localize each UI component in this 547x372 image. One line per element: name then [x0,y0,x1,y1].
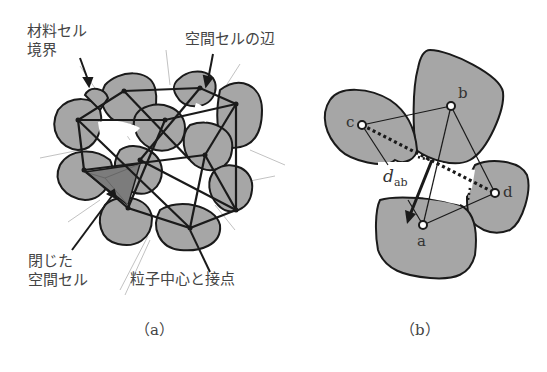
distance-label-dab: dab [383,166,408,189]
point-d-label: d [503,183,513,201]
point-c-label: c [346,113,354,131]
point-c [358,121,366,129]
caption-b: （b） [400,318,440,339]
point-a-label: a [417,232,426,250]
point-b-label: b [458,84,468,102]
particle-c [325,90,417,164]
point-d [491,189,499,197]
material-cell-boundary-label: 材料セル 境界 [27,22,87,60]
distance-subscript: ab [394,176,408,189]
label-line-2: 境界 [27,41,87,60]
panel-b-diagram [325,50,529,278]
void-cell-edge-label: 空間セルの辺 [185,30,275,49]
caption-a: （a） [135,318,174,339]
point-a [419,221,427,229]
label-line-1: 閉じた [28,252,88,271]
closed-void-cell-label: 閉じた 空間セル [28,252,88,290]
distance-symbol: d [383,166,394,186]
particle-b [414,50,504,163]
label-line-2: 空間セル [28,271,88,290]
label-line-1: 材料セル [27,22,87,41]
point-b [447,102,455,110]
particle-center-contact-label: 粒子中心と接点 [130,270,235,289]
